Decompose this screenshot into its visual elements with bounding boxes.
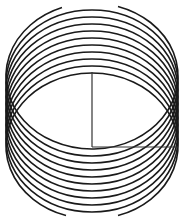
coil-diagram: [0, 0, 191, 224]
diagram-canvas: [0, 0, 191, 224]
